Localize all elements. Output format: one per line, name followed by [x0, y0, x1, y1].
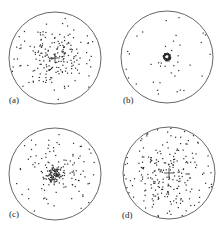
scatter-points-a — [12, 18, 93, 100]
figure: (a) (b) (c) (d) — [0, 0, 221, 229]
panel-c: (c) — [9, 128, 101, 220]
panel-label-d: (d) — [122, 210, 133, 220]
boundary-circle-b — [121, 11, 213, 103]
panel-a: (a) — [9, 12, 101, 105]
panel-label-a: (a) — [9, 95, 19, 105]
panel-d: (d) — [122, 127, 215, 220]
scatter-points-b — [126, 17, 211, 95]
panel-label-c: (c) — [9, 209, 19, 219]
scatter-points-c — [16, 134, 95, 212]
scatter-points-d — [124, 128, 212, 217]
panel-b: (b) — [121, 11, 213, 105]
panel-label-b: (b) — [123, 95, 134, 105]
